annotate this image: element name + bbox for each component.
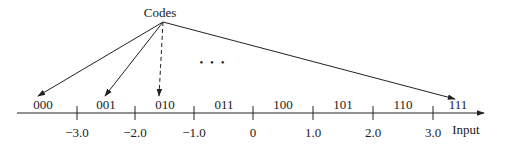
ellipsis: • • • <box>199 56 226 68</box>
axis-label-input: Input <box>452 122 480 137</box>
code-labels: 000001010011100101110111 <box>33 97 467 112</box>
quantization-codes-diagram: Codes • • • −3.0−2.0−1.001.02.03.0 00000… <box>0 0 508 150</box>
code-label: 100 <box>273 97 293 112</box>
codes-title: Codes <box>144 5 177 20</box>
tick-label: 2.0 <box>365 125 381 140</box>
tick-label: 0 <box>250 125 257 140</box>
tick-label: −2.0 <box>123 125 147 140</box>
code-label: 101 <box>333 97 353 112</box>
code-label: 011 <box>214 97 233 112</box>
code-label: 111 <box>449 97 468 112</box>
tick-label: 3.0 <box>425 125 441 140</box>
code-label: 110 <box>393 97 412 112</box>
code-label: 001 <box>96 97 116 112</box>
code-label: 010 <box>155 97 175 112</box>
tick-label: 1.0 <box>305 125 321 140</box>
tick-label: −1.0 <box>182 125 206 140</box>
arrow-to-010 <box>159 22 163 96</box>
code-arrows <box>38 22 455 99</box>
arrow-to-000 <box>38 22 163 96</box>
axis-ticks: −3.0−2.0−1.001.02.03.0 <box>65 106 441 140</box>
code-label: 000 <box>33 97 53 112</box>
tick-label: −3.0 <box>65 125 89 140</box>
arrow-to-001 <box>105 22 163 96</box>
